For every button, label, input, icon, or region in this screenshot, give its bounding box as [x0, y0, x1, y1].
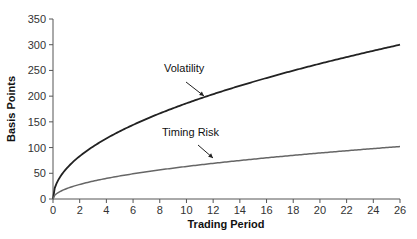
y-tick-label: 100 [28, 142, 46, 154]
series-line-volatility [53, 45, 400, 199]
x-tick-label: 22 [340, 204, 352, 216]
annotation-label: Timing Risk [162, 126, 220, 138]
y-tick-label: 350 [28, 13, 46, 25]
annotation-label: Volatility [164, 62, 205, 74]
y-tick-label: 150 [28, 116, 46, 128]
x-tick-label: 2 [77, 204, 83, 216]
series-line-timing-risk [53, 147, 400, 199]
x-axis-label: Trading Period [187, 218, 264, 230]
x-tick-label: 4 [103, 204, 109, 216]
y-axis-label: Basis Points [5, 76, 17, 142]
y-tick-label: 300 [28, 39, 46, 51]
x-tick-label: 10 [180, 204, 192, 216]
x-tick-label: 14 [234, 204, 246, 216]
x-tick-label: 20 [314, 204, 326, 216]
axes: 0246810121416182022242605010015020025030… [28, 13, 406, 216]
y-tick-label: 50 [34, 167, 46, 179]
x-tick-label: 16 [260, 204, 272, 216]
y-tick-label: 250 [28, 64, 46, 76]
y-tick-label: 200 [28, 90, 46, 102]
x-tick-label: 12 [207, 204, 219, 216]
line-chart: 0246810121416182022242605010015020025030… [0, 0, 417, 239]
x-tick-label: 0 [50, 204, 56, 216]
x-tick-label: 8 [157, 204, 163, 216]
x-tick-label: 6 [130, 204, 136, 216]
data-lines [53, 45, 400, 199]
x-tick-label: 26 [394, 204, 406, 216]
y-tick-label: 0 [40, 193, 46, 205]
x-tick-label: 18 [287, 204, 299, 216]
x-tick-label: 24 [367, 204, 379, 216]
